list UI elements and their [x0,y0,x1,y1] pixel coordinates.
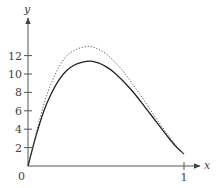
series-group [28,46,184,166]
dotted-curve [28,46,184,166]
axes: x y 0 [18,3,211,183]
y-tick-label: 10 [8,68,22,81]
y-tick-label: 8 [15,86,22,99]
x-ticks: 1 [181,162,188,184]
y-tick-label: 12 [8,50,22,63]
x-tick-label: 1 [181,171,188,184]
x-axis-label: x [204,159,211,172]
y-tick-label: 2 [15,142,22,155]
solid-curve [28,61,184,166]
y-tick-label: 4 [15,123,22,136]
y-tick-label: 6 [15,105,22,118]
line-chart: x y 0 24681012 1 [0,0,217,188]
y-axis-label: y [23,3,31,16]
origin-label: 0 [18,170,25,183]
